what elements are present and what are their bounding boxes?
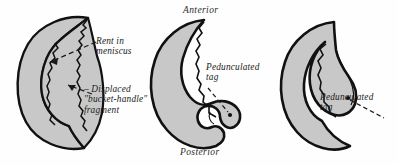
panel-pedunculated-tag-anterior xyxy=(262,0,398,165)
meniscus-body-with-tag xyxy=(281,22,356,150)
meniscus-figure: Rent in meniscus – Displaced "bucket-han… xyxy=(0,0,398,165)
panel-bucket-handle-tear xyxy=(0,0,140,165)
tag-attachment-point xyxy=(228,113,232,117)
label-rent-in-meniscus: Rent in meniscus xyxy=(96,36,132,57)
meniscus-diagram-3 xyxy=(262,0,398,165)
label-pedunculated-tag-panel-2: Pedunculated tag xyxy=(206,62,260,83)
meniscus-body-with-tag xyxy=(151,20,240,148)
label-pedunculated-tag-panel-3: Pedunculated tag xyxy=(320,92,374,113)
label-anterior: Anterior xyxy=(183,5,218,15)
label-posterior: Posterior xyxy=(180,147,220,157)
meniscus-diagram-1 xyxy=(0,0,140,165)
